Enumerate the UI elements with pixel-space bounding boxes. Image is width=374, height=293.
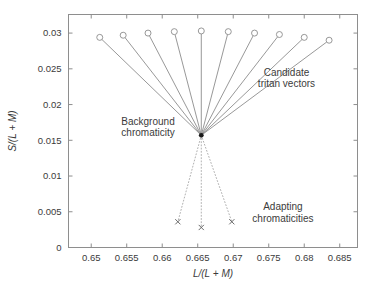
tritan-vector-endpoint-0 bbox=[97, 34, 103, 40]
y-tick-label-3: 0.015 bbox=[38, 135, 62, 146]
y-tick-label-1: 0.005 bbox=[38, 206, 62, 217]
tritan-vector-endpoint-6 bbox=[252, 30, 258, 36]
annotation-line-2: tritan vectors bbox=[258, 78, 315, 89]
x-tick-label-3: 0.665 bbox=[186, 252, 210, 263]
tritan-vector-endpoint-8 bbox=[301, 34, 307, 40]
x-tick-label-0: 0.65 bbox=[82, 252, 101, 263]
background-chromaticity-marker bbox=[199, 133, 204, 138]
figure-container: 0.650.6550.660.6650.670.6750.680.685 00.… bbox=[0, 0, 374, 293]
x-tick-label-7: 0.685 bbox=[328, 252, 352, 263]
annotation-line-1: Background bbox=[121, 116, 174, 127]
y-tick-label-5: 0.025 bbox=[38, 63, 62, 74]
annotation-line-2: chromaticity bbox=[121, 127, 174, 138]
y-axis-label: S/(L + M) bbox=[7, 110, 18, 151]
annotation-background-chromaticity: Backgroundchromaticity bbox=[121, 116, 174, 138]
tritan-vector-endpoint-7 bbox=[276, 32, 282, 38]
x-tick-label-2: 0.66 bbox=[153, 252, 172, 263]
y-tick-label-4: 0.02 bbox=[43, 99, 62, 110]
tritan-vector-endpoint-4 bbox=[198, 28, 204, 34]
tritan-vector-chart: 0.650.6550.660.6650.670.6750.680.685 00.… bbox=[0, 0, 374, 293]
annotation-line-2: chromaticities bbox=[252, 213, 313, 224]
tritan-vector-endpoint-3 bbox=[171, 29, 177, 35]
x-tick-label-1: 0.655 bbox=[115, 252, 139, 263]
x-axis-label: L/(L + M) bbox=[193, 268, 233, 279]
background-chromaticity-point bbox=[199, 133, 204, 138]
tritan-vector-endpoint-1 bbox=[120, 32, 126, 38]
y-tick-label-0: 0 bbox=[56, 242, 61, 253]
tritan-vector-endpoint-2 bbox=[145, 30, 151, 36]
annotation-line-1: Adapting bbox=[263, 201, 302, 212]
y-tick-label-6: 0.03 bbox=[43, 27, 62, 38]
x-tick-label-6: 0.68 bbox=[295, 252, 314, 263]
annotation-candidate-tritan-vectors: Candidatetritan vectors bbox=[258, 67, 315, 90]
x-tick-label-5: 0.675 bbox=[257, 252, 281, 263]
tritan-vector-endpoint-5 bbox=[225, 29, 231, 35]
annotation-line-1: Candidate bbox=[264, 67, 310, 78]
x-tick-label-4: 0.67 bbox=[224, 252, 243, 263]
tritan-vector-endpoint-9 bbox=[326, 37, 332, 43]
y-tick-label-2: 0.01 bbox=[43, 170, 62, 181]
